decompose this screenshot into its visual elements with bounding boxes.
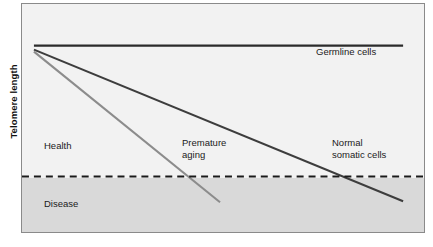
germline-cells-label: Germline cells xyxy=(316,46,376,58)
y-axis-title: Telomere length xyxy=(8,37,19,167)
chart-lines xyxy=(22,4,424,232)
premature-aging-label: Premature aging xyxy=(182,137,226,160)
telomere-length-diagram: Telomere length Germline cells Health Pr… xyxy=(0,0,433,247)
normal-somatic-cells-label: Normal somatic cells xyxy=(332,137,386,160)
health-region-label: Health xyxy=(44,140,71,152)
plot-area: Germline cells Health Premature aging No… xyxy=(21,3,425,233)
disease-region-label: Disease xyxy=(44,198,78,210)
normal-somatic-cells-line xyxy=(34,50,403,202)
premature-aging-line xyxy=(34,52,220,203)
